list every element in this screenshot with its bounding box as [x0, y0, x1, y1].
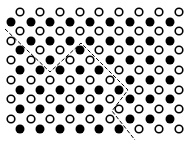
open-circle — [175, 8, 183, 16]
open-circle — [115, 46, 123, 54]
filled-circle — [106, 37, 115, 46]
open-circle — [86, 115, 94, 123]
open-circle — [56, 8, 64, 16]
open-circle — [76, 8, 84, 16]
open-circle — [106, 115, 114, 123]
filled-circle — [126, 18, 135, 27]
open-circle — [175, 66, 183, 74]
filled-circle — [27, 37, 36, 46]
open-circle — [27, 95, 35, 103]
open-circle — [46, 95, 54, 103]
filled-circle — [146, 37, 155, 46]
open-circle — [155, 8, 163, 16]
filled-circle — [7, 18, 16, 27]
open-circle — [36, 27, 44, 35]
filled-circle — [76, 86, 85, 95]
open-circle — [135, 125, 143, 133]
filled-circle — [106, 56, 115, 65]
filled-circle — [16, 86, 25, 95]
filled-circle — [16, 66, 25, 75]
filled-circle — [27, 18, 36, 27]
filled-circle — [76, 66, 85, 75]
open-circle — [56, 46, 64, 54]
filled-circle — [146, 115, 155, 124]
open-circle — [106, 95, 114, 103]
open-circle — [155, 86, 163, 94]
filled-circle — [126, 76, 135, 85]
open-circle — [115, 27, 123, 35]
filled-circle — [95, 105, 104, 114]
filled-circle — [115, 86, 124, 95]
filled-circle — [146, 18, 155, 27]
open-circle — [175, 105, 183, 113]
open-circle — [66, 115, 74, 123]
lattice-svg — [0, 0, 192, 146]
open-circle — [95, 27, 103, 35]
open-circle — [155, 105, 163, 113]
open-circle — [175, 125, 183, 133]
open-circle — [66, 76, 74, 84]
filled-circle — [146, 95, 155, 104]
filled-circle — [46, 56, 55, 65]
open-circle — [16, 27, 24, 35]
filled-circle — [115, 125, 124, 134]
open-circle — [27, 76, 35, 84]
open-circle — [7, 37, 15, 45]
filled-circle — [76, 105, 85, 114]
filled-circle — [126, 115, 135, 124]
open-circle — [135, 8, 143, 16]
filled-circle — [166, 18, 175, 27]
open-circle — [7, 95, 15, 103]
filled-circle — [66, 18, 75, 27]
open-circle — [66, 56, 74, 64]
open-circle — [135, 27, 143, 35]
open-circle — [135, 66, 143, 74]
filled-circle — [126, 37, 135, 46]
open-circle — [135, 105, 143, 113]
open-circle — [155, 46, 163, 54]
filled-circle — [16, 105, 25, 114]
open-circle — [7, 76, 15, 84]
filled-circle — [66, 37, 75, 46]
open-circle — [76, 27, 84, 35]
filled-circle — [46, 18, 55, 27]
filled-circle — [56, 105, 65, 114]
filled-circle — [166, 37, 175, 46]
filled-circle — [36, 125, 45, 134]
filled-circle — [16, 125, 25, 134]
open-circle — [66, 95, 74, 103]
open-circle — [175, 46, 183, 54]
open-circle — [115, 66, 123, 74]
filled-circle — [166, 95, 175, 104]
filled-circle — [166, 56, 175, 65]
filled-circle — [36, 86, 45, 95]
filled-circle — [76, 125, 85, 134]
filled-circle — [56, 86, 65, 95]
open-circle — [36, 46, 44, 54]
open-circle — [155, 125, 163, 133]
lattice-diagram — [0, 0, 192, 146]
open-circle — [175, 86, 183, 94]
open-circle — [46, 115, 54, 123]
filled-circle — [166, 115, 175, 124]
filled-circle — [166, 76, 175, 85]
filled-circle — [95, 66, 104, 75]
open-circle — [7, 56, 15, 64]
open-circle — [16, 8, 24, 16]
filled-circle — [56, 125, 65, 134]
filled-circle — [56, 66, 65, 75]
filled-circle — [36, 105, 45, 114]
open-circle — [155, 27, 163, 35]
open-circle — [27, 56, 35, 64]
filled-circle — [86, 37, 95, 46]
open-circle — [95, 8, 103, 16]
filled-circle — [36, 66, 45, 75]
filled-circle — [95, 86, 104, 95]
open-circle — [135, 86, 143, 94]
filled-circle — [46, 37, 55, 46]
filled-circle — [86, 18, 95, 27]
open-circle — [27, 115, 35, 123]
open-circle — [46, 76, 54, 84]
filled-circle — [106, 18, 115, 27]
open-circle — [86, 76, 94, 84]
